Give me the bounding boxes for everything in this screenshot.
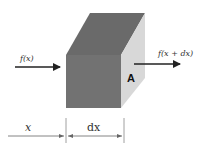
dimension-x-label: x bbox=[25, 121, 32, 134]
inflow-label: f(x) bbox=[19, 54, 34, 63]
dimension-dx-label: dx bbox=[87, 121, 101, 134]
volume-element-cube bbox=[66, 13, 145, 108]
flux-diagram: A f(x) f(x + dx) x dx bbox=[0, 0, 199, 150]
outflow-label: f(x + dx) bbox=[157, 49, 193, 58]
cube-front-face bbox=[66, 55, 121, 108]
face-label-a: A bbox=[127, 72, 135, 84]
